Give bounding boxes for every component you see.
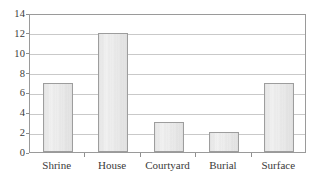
bar bbox=[209, 132, 239, 152]
bars bbox=[30, 15, 305, 152]
x-axis-tick-label: Courtyard bbox=[145, 158, 190, 172]
y-axis-tick-label: 4 bbox=[3, 108, 25, 119]
y-axis-tick-label: 8 bbox=[3, 68, 25, 79]
y-axis-tick-label: 6 bbox=[3, 88, 25, 99]
bar bbox=[264, 83, 294, 153]
bar bbox=[154, 122, 184, 152]
x-axis-tick-mark bbox=[140, 153, 141, 157]
x-axis-tick-label: Burial bbox=[209, 158, 237, 172]
x-axis-tick-labels: ShrineHouseCourtyardBurialSurface bbox=[29, 158, 306, 176]
y-axis-tick-label: 10 bbox=[3, 48, 25, 59]
x-axis-tick-label: House bbox=[98, 158, 126, 172]
bar-chart: 02468101214 ShrineHouseCourtyardBurialSu… bbox=[0, 0, 325, 179]
bar bbox=[98, 33, 128, 152]
x-axis-tick-mark bbox=[195, 153, 196, 157]
y-axis-tick-label: 14 bbox=[3, 9, 25, 20]
bar bbox=[43, 83, 73, 153]
x-axis-tick-mark bbox=[84, 153, 85, 157]
x-axis-tick-marks bbox=[29, 153, 306, 157]
x-axis-tick-label: Shrine bbox=[42, 158, 71, 172]
y-axis-tick-label: 2 bbox=[3, 128, 25, 139]
y-axis-tick-labels: 02468101214 bbox=[0, 14, 25, 153]
y-axis-tick-label: 12 bbox=[3, 29, 25, 40]
plot-area bbox=[29, 14, 306, 153]
x-axis-tick-mark bbox=[251, 153, 252, 157]
x-axis-tick-label: Surface bbox=[262, 158, 296, 172]
y-axis-tick-label: 0 bbox=[3, 148, 25, 159]
